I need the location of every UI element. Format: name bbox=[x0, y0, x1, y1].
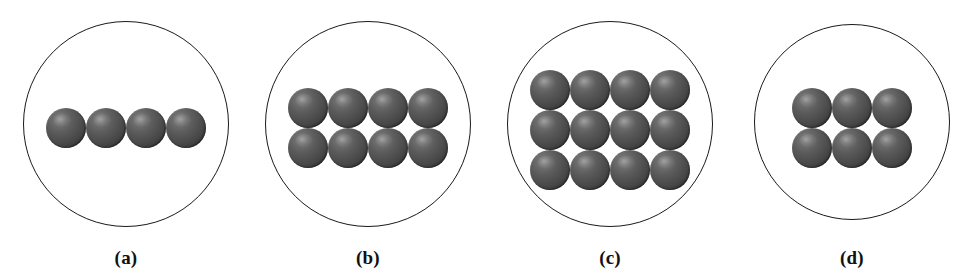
sphere bbox=[832, 128, 872, 168]
sphere bbox=[792, 128, 832, 168]
sphere bbox=[872, 128, 912, 168]
panel-label-d: (d) bbox=[792, 248, 912, 267]
sphere bbox=[832, 88, 872, 128]
sphere bbox=[792, 88, 832, 128]
sphere-cluster-d bbox=[792, 88, 912, 168]
sphere bbox=[872, 88, 912, 128]
figure-root: (a)(b)(c)(d) bbox=[0, 0, 970, 279]
panel-d: (d) bbox=[0, 0, 970, 279]
